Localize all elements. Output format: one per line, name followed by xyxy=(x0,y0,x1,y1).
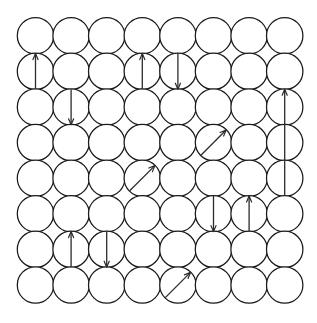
lattice-site-circle xyxy=(89,196,125,232)
lattice-site-circle xyxy=(17,267,53,303)
lattice-site-circle xyxy=(267,231,303,267)
lattice-site-circle xyxy=(195,231,231,267)
lattice-site-circle xyxy=(267,53,303,89)
lattice-site-circle xyxy=(89,53,125,89)
lattice-diagram xyxy=(0,0,317,323)
lattice-site-circle xyxy=(160,124,196,160)
lattice-site-circle xyxy=(195,160,231,196)
lattice-site-circle xyxy=(195,18,231,54)
lattice-site-circle xyxy=(53,18,89,54)
lattice-site-circle xyxy=(53,267,89,303)
lattice-site-circle xyxy=(160,89,196,125)
lattice-site-circle xyxy=(195,267,231,303)
lattice-site-circle xyxy=(53,53,89,89)
lattice-figure xyxy=(0,0,317,323)
lattice-site-circle xyxy=(124,196,160,232)
lattice-site-circle xyxy=(17,124,53,160)
lattice-site-circle xyxy=(89,124,125,160)
lattice-site-circle xyxy=(17,160,53,196)
lattice-site-circle xyxy=(17,18,53,54)
lattice-site-circle xyxy=(267,196,303,232)
lattice-site-circle xyxy=(160,160,196,196)
lattice-site-circle xyxy=(231,231,267,267)
lattice-site-circle xyxy=(53,196,89,232)
lattice-site-circle xyxy=(231,89,267,125)
lattice-site-circle xyxy=(195,53,231,89)
lattice-site-circle xyxy=(124,89,160,125)
lattice-site-circle xyxy=(89,18,125,54)
lattice-site-circle xyxy=(231,124,267,160)
lattice-site-circle xyxy=(17,196,53,232)
lattice-site-circle xyxy=(231,160,267,196)
lattice-circles-group xyxy=(17,18,303,304)
lattice-site-circle xyxy=(17,231,53,267)
lattice-site-circle xyxy=(89,267,125,303)
lattice-site-circle xyxy=(267,18,303,54)
lattice-site-circle xyxy=(160,18,196,54)
lattice-site-circle xyxy=(17,89,53,125)
lattice-site-circle xyxy=(53,124,89,160)
lattice-site-circle xyxy=(124,267,160,303)
lattice-site-circle xyxy=(124,231,160,267)
lattice-site-circle xyxy=(89,160,125,196)
lattice-site-circle xyxy=(195,89,231,125)
lattice-site-circle xyxy=(124,124,160,160)
lattice-site-circle xyxy=(231,53,267,89)
lattice-site-circle xyxy=(89,89,125,125)
lattice-site-circle xyxy=(267,267,303,303)
lattice-site-circle xyxy=(160,196,196,232)
lattice-site-circle xyxy=(231,18,267,54)
lattice-site-circle xyxy=(53,160,89,196)
lattice-site-circle xyxy=(160,231,196,267)
lattice-site-circle xyxy=(124,18,160,54)
lattice-site-circle xyxy=(231,267,267,303)
